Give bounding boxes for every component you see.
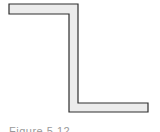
z-section-drawing	[0, 0, 160, 132]
figure-caption: Figure 5.12	[9, 125, 70, 132]
z-section-outline	[9, 4, 148, 112]
z-section-figure: Figure 5.12	[0, 0, 160, 132]
